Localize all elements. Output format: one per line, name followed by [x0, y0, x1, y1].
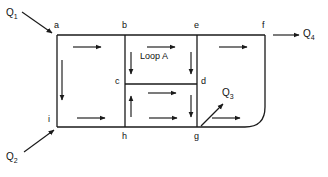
flow-label-q1: Q1 [6, 8, 18, 20]
node-label-a: a [54, 21, 59, 30]
flow-label-q2: Q2 [6, 152, 18, 164]
flow-label-q3: Q3 [222, 88, 234, 100]
flow-label-q4: Q4 [303, 29, 315, 41]
inflow-arrow-q1 [22, 12, 52, 33]
node-label-d: d [201, 77, 206, 86]
node-label-b: b [122, 21, 127, 30]
node-label-h: h [122, 132, 127, 141]
node-label-i: i [48, 115, 50, 124]
pipe-network-diagram: a b e f c d i h g Loop A Q1 Q2 Q3 Q4 [0, 0, 328, 177]
node-label-c: c [115, 77, 120, 86]
node-label-e: e [194, 21, 199, 30]
outflow-arrow-q3 [201, 104, 223, 126]
node-label-f: f [262, 21, 265, 30]
inflow-arrow-q2 [24, 130, 54, 152]
loop-a-label: Loop A [140, 52, 168, 61]
pipe-g-f-curved-line [197, 35, 265, 127]
pipe-network-svg [0, 0, 328, 177]
node-label-g: g [194, 132, 199, 141]
